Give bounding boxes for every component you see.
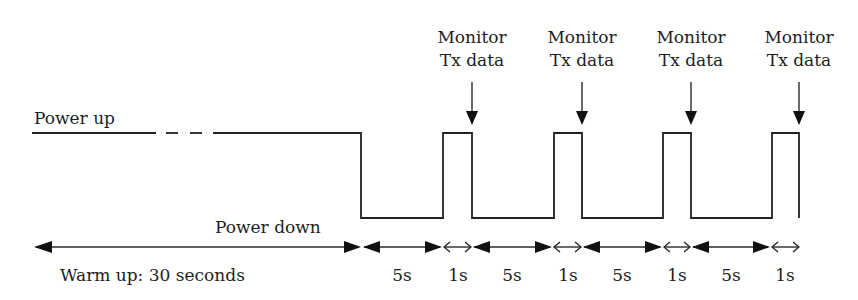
interval-label: 5s	[721, 265, 741, 285]
arrow-left-icon	[363, 241, 380, 253]
tx-data-label: Tx data	[767, 50, 831, 70]
tx-data-label: Tx data	[440, 50, 504, 70]
arrow-left-icon	[473, 241, 490, 253]
arrow-right-icon	[344, 241, 361, 253]
duty-cycle-signal	[213, 133, 799, 218]
warm-up-label: Warm up: 30 seconds	[60, 265, 245, 285]
arrow-left-icon	[34, 241, 52, 253]
arrow-down-icon	[466, 111, 478, 125]
arrow-down-icon	[685, 111, 697, 125]
arrow-right-icon	[645, 241, 662, 253]
monitor-marker-2: Monitor Tx data	[547, 27, 617, 125]
tx-data-label: Tx data	[550, 50, 614, 70]
interval-label: 5s	[392, 265, 412, 285]
power-up-label: Power up	[34, 108, 115, 128]
monitor-label: Monitor	[764, 27, 834, 47]
interval-label: 5s	[502, 265, 522, 285]
arrow-down-icon	[793, 111, 805, 125]
arrow-down-icon	[576, 111, 588, 125]
arrow-left-icon	[692, 241, 709, 253]
monitor-label: Monitor	[547, 27, 617, 47]
interval-label: 1s	[558, 265, 578, 285]
monitor-label: Monitor	[437, 27, 507, 47]
monitor-label: Monitor	[656, 27, 726, 47]
tx-data-label: Tx data	[659, 50, 723, 70]
interval-label: 1s	[775, 265, 795, 285]
power-waveform	[32, 133, 799, 218]
arrow-right-icon	[753, 241, 770, 253]
timing-diagram: Monitor Tx data Monitor Tx data Monitor …	[0, 0, 858, 300]
arrow-right-icon	[535, 241, 552, 253]
timing-axis	[34, 241, 799, 253]
interval-label: 1s	[667, 265, 687, 285]
monitor-marker-1: Monitor Tx data	[437, 27, 507, 125]
interval-label: 1s	[448, 265, 468, 285]
arrow-right-icon	[425, 241, 442, 253]
monitor-marker-3: Monitor Tx data	[656, 27, 726, 125]
arrow-left-icon	[583, 241, 600, 253]
monitor-marker-4: Monitor Tx data	[764, 27, 834, 125]
power-down-label: Power down	[215, 217, 321, 237]
interval-label: 5s	[612, 265, 632, 285]
